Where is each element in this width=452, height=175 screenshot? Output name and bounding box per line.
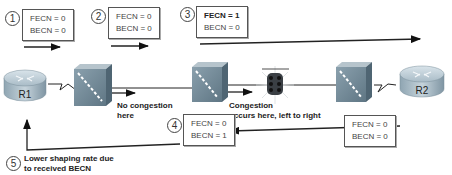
return-becn: BECN = 0 bbox=[352, 131, 388, 143]
step-3-becn: BECN = 0 bbox=[204, 22, 240, 34]
step-3-fecn: FECN = 1 bbox=[204, 10, 240, 22]
step-5-badge: 5 bbox=[6, 156, 21, 171]
step-4-becn: BECN = 1 bbox=[191, 130, 227, 142]
step-2-frame-box: FECN = 0 BECN = 0 bbox=[108, 7, 160, 39]
return-frame-box: FECN = 0 BECN = 0 bbox=[344, 115, 396, 147]
step-5-caption: Lower shaping rate due to received BECN bbox=[24, 154, 114, 174]
switch-sw2 bbox=[192, 62, 228, 102]
congestion-icon bbox=[256, 66, 294, 104]
return-fecn: FECN = 0 bbox=[352, 119, 388, 131]
step-2-fecn: FECN = 0 bbox=[116, 11, 152, 23]
step-1-fecn: FECN = 0 bbox=[30, 13, 66, 25]
step-2-badge: 2 bbox=[91, 9, 106, 24]
step-4-badge: 4 bbox=[167, 118, 182, 133]
switch-sw1 bbox=[74, 64, 112, 106]
router-r2-label: R2 bbox=[414, 85, 430, 96]
step-4-fecn: FECN = 0 bbox=[191, 118, 227, 130]
step-1-frame-box: FECN = 0 BECN = 0 bbox=[22, 9, 74, 41]
step-3-badge: 3 bbox=[180, 7, 195, 22]
step-1-badge: 1 bbox=[5, 11, 20, 26]
step-2-becn: BECN = 0 bbox=[116, 23, 152, 35]
step-4-frame-box: FECN = 0 BECN = 1 bbox=[183, 114, 235, 146]
congestion-caption: Congestion occurs here, left to right bbox=[229, 101, 321, 121]
step-3-frame-box: FECN = 1 BECN = 0 bbox=[196, 6, 248, 38]
link-r1-sw1 bbox=[48, 84, 78, 90]
step-1-becn: BECN = 0 bbox=[30, 25, 66, 37]
no-congestion-caption: No congestion here bbox=[117, 101, 173, 121]
arrow-step-3 bbox=[200, 39, 420, 44]
switch-sw3 bbox=[336, 62, 372, 102]
router-r1-label: R1 bbox=[17, 89, 33, 100]
link-sw3-r2 bbox=[374, 84, 396, 92]
